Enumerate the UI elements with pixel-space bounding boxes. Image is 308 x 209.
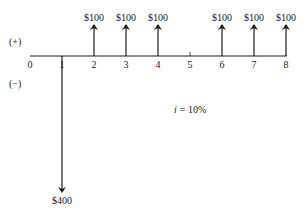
cash-inflow-label-period-3: $100 — [116, 12, 136, 23]
positive-region-label: (+) — [9, 36, 21, 48]
period-label-2: 2 — [92, 59, 97, 70]
cash-inflow-label-period-8: $100 — [276, 12, 296, 23]
period-label-8: 8 — [284, 59, 289, 70]
interest-rate-label: i= 10% — [174, 104, 206, 115]
cash-inflow-arrows — [94, 27, 286, 56]
interest-rate-symbol: i — [174, 104, 177, 115]
period-label-7: 7 — [252, 59, 257, 70]
cash-inflow-label-period-7: $100 — [244, 12, 264, 23]
cash-inflow-label-period-2: $100 — [84, 12, 104, 23]
interest-rate-value: = 10% — [180, 104, 206, 115]
period-label-0: 0 — [28, 59, 33, 70]
period-label-3: 3 — [124, 59, 129, 70]
cash-inflow-labels: $100 $100 $100 $100 $100 $100 — [84, 12, 296, 23]
cash-inflow-label-period-4: $100 — [148, 12, 168, 23]
cash-inflow-label-period-6: $100 — [212, 12, 232, 23]
period-label-5: 5 — [188, 59, 193, 70]
cash-flow-diagram: (+) (−) 0 1 2 3 4 5 6 7 8 $400 $100 $100… — [0, 0, 308, 209]
period-label-6: 6 — [220, 59, 225, 70]
negative-region-label: (−) — [9, 78, 21, 90]
cash-outflow-label-period-1: $400 — [52, 195, 72, 206]
period-label-4: 4 — [156, 59, 161, 70]
period-labels: 0 1 2 3 4 5 6 7 8 — [28, 59, 289, 70]
